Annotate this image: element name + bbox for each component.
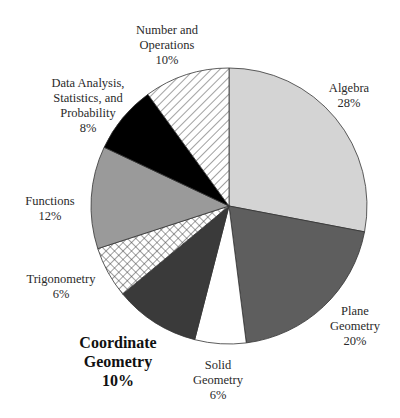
slice-percentage: 10%	[136, 53, 198, 68]
slice-percentage: 12%	[25, 209, 74, 224]
slice-label-text: Geometry	[79, 352, 156, 371]
slice-percentage: 28%	[329, 96, 369, 111]
pie-slices	[91, 68, 367, 344]
slice-label-text: Geometry	[193, 373, 243, 388]
slice-label-text: Solid	[193, 358, 243, 373]
slice-percentage: 8%	[52, 121, 125, 136]
slice-label-text: Operations	[136, 38, 198, 53]
slice-label: Trigonometry6%	[27, 272, 96, 302]
slice-label: SolidGeometry6%	[193, 358, 243, 403]
slice-label-text: Trigonometry	[27, 272, 96, 287]
slice-label-text: Algebra	[329, 81, 369, 96]
slice-label-text: Number and	[136, 23, 198, 38]
slice-label-text: Statistics, and	[52, 91, 125, 106]
slice-label-text: Plane	[330, 304, 380, 319]
slice-label-text: Geometry	[330, 319, 380, 334]
slice-label: Number andOperations10%	[136, 23, 198, 68]
slice-percentage: 6%	[27, 287, 96, 302]
slice-label-text: Data Analysis,	[52, 76, 125, 91]
slice-label-text: Functions	[25, 194, 74, 209]
slice-label-text: Coordinate	[79, 333, 156, 352]
slice-label: PlaneGeometry20%	[330, 304, 380, 349]
slice-percentage: 20%	[330, 334, 380, 349]
slice-percentage: 6%	[193, 388, 243, 403]
slice-label: Functions12%	[25, 194, 74, 224]
slice-label: Data Analysis,Statistics, andProbability…	[52, 76, 125, 136]
slice-label: Algebra28%	[329, 81, 369, 111]
slice-percentage: 10%	[79, 371, 156, 390]
slice-label: CoordinateGeometry10%	[79, 333, 156, 390]
slice-label-text: Probability	[52, 106, 125, 121]
